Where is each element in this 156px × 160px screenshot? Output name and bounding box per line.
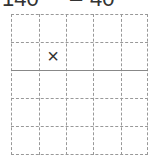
- header-right-value: 40: [90, 0, 114, 10]
- grid-line-h3: [11, 98, 148, 99]
- header-dash: –: [70, 0, 82, 10]
- grid-line-h2-solid: [11, 70, 148, 71]
- header-left-value: 140: [2, 0, 39, 10]
- grid-line-v2: [66, 14, 67, 155]
- game-grid: ×: [11, 14, 148, 155]
- grid-line-h5: [11, 154, 148, 155]
- grid-line-v1: [39, 14, 40, 155]
- grid-line-v3: [93, 14, 94, 155]
- grid-line-h0: [11, 14, 148, 15]
- cell-mark-x[interactable]: ×: [39, 42, 67, 70]
- grid-line-v0: [11, 14, 12, 155]
- grid-line-h4: [11, 126, 148, 127]
- header-text: 140 – 40: [0, 0, 156, 10]
- grid-line-h1: [11, 42, 148, 43]
- grid-line-v5: [147, 14, 148, 155]
- grid-line-v4: [121, 14, 122, 155]
